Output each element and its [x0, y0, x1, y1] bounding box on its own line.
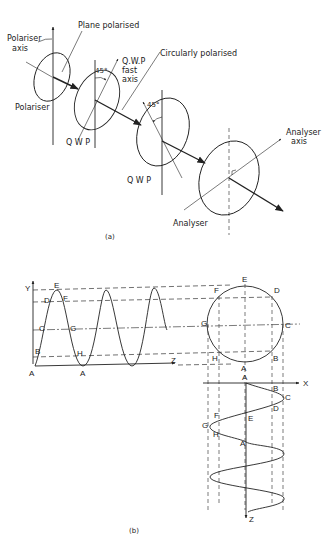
projection-line-bh	[33, 351, 272, 357]
wave-label-g: G	[70, 324, 76, 333]
lower-label-h: H	[213, 430, 219, 439]
z-axis-upper	[35, 363, 175, 366]
polariser-element	[26, 27, 77, 145]
projection-line-e	[33, 285, 232, 290]
qwp2-ellipse	[128, 91, 199, 174]
lower-label-c: C	[285, 393, 291, 402]
wave-label-h: H	[77, 349, 83, 358]
label-qwp-1: Q W P	[66, 138, 90, 147]
circle-label-d: D	[274, 286, 280, 295]
lower-label-a1: A	[242, 373, 248, 382]
polarisation-diagram: Polariser axis Plane polarised Polariser…	[0, 0, 332, 550]
label-analyser: Analyser	[173, 219, 208, 228]
beam-segment-out	[229, 178, 283, 211]
label-polariser: Polariser	[15, 103, 50, 112]
lower-label-e: E	[248, 414, 253, 423]
caption-b: (b)	[129, 527, 139, 535]
label-plane-polarised: Plane polarised	[78, 21, 139, 30]
circle-label-a: A	[241, 364, 247, 373]
plane-polarised-leader	[62, 31, 82, 72]
qwp2-axis	[143, 102, 182, 178]
lower-label-d: D	[273, 404, 279, 413]
analyser-axis	[184, 139, 281, 210]
wave-label-a1: A	[29, 369, 35, 378]
circle-label-h: H	[212, 354, 218, 363]
label-z-axis-lower: Z	[249, 515, 254, 524]
angle-arc-2	[153, 117, 162, 122]
beam-segment-1	[53, 77, 78, 89]
lower-label-a2: A	[240, 439, 246, 448]
lower-label-g: G	[202, 421, 208, 430]
lower-label-b: B	[273, 384, 278, 393]
wave-label-f: F	[63, 294, 68, 303]
caption-a: (a)	[105, 233, 115, 241]
sine-wave-lower	[210, 383, 284, 512]
label-x-axis: X	[303, 379, 309, 388]
label-qwp-2: Q W P	[127, 176, 151, 185]
wave-label-b: B	[35, 347, 40, 356]
label-qwp-fast-1: Q.W.P	[122, 57, 145, 66]
circle-label-f: F	[214, 286, 219, 295]
figure-a: Polariser axis Plane polarised Polariser…	[7, 21, 321, 241]
wave-label-e: E	[54, 281, 59, 290]
wave-label-c: C	[39, 324, 45, 333]
lower-label-f: F	[214, 411, 219, 420]
circle-label-e: E	[242, 275, 247, 284]
wave-label-a2: A	[80, 369, 86, 378]
angle-arc-1	[95, 77, 106, 80]
projection-line-a	[178, 364, 232, 365]
label-qwp-fast-2: fast	[122, 66, 137, 75]
label-angle-45-2: 45°	[147, 101, 159, 109]
label-qwp-fast-3: axis	[122, 75, 138, 84]
label-analyser-axis-1: Analyser	[286, 128, 321, 137]
projection-lines-vertical	[208, 296, 283, 512]
label-z-axis-upper: Z	[171, 356, 176, 365]
label-polariser-axis-1: Polariser	[7, 34, 42, 43]
wave-label-d: D	[44, 296, 50, 305]
figure-b: Y Z A B C D E F G H A E	[25, 275, 309, 535]
label-polariser-axis-2: axis	[12, 44, 28, 53]
label-y-axis: Y	[25, 284, 31, 293]
circle-label-g: G	[201, 319, 207, 328]
circle-label-c: C	[285, 321, 291, 330]
label-circularly-polarised: Circularly polarised	[160, 49, 237, 58]
label-analyser-axis-2: axis	[291, 137, 307, 146]
circle-label-b: B	[273, 354, 278, 363]
projection-line-df	[33, 297, 272, 302]
label-angle-45-1: 45°	[95, 67, 107, 75]
